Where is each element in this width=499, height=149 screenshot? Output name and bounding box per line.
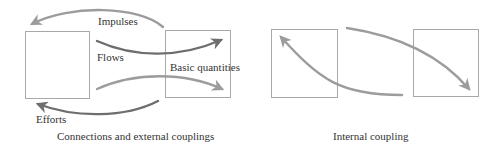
internal-downward-arrow [347, 28, 469, 89]
impulses-label: Impulses [98, 16, 138, 27]
internal-upward-arrow [281, 37, 402, 95]
internal-coupling-caption: Internal coupling [333, 131, 408, 142]
efforts-label: Efforts [36, 114, 66, 125]
external-left-box [26, 32, 90, 99]
diagram-canvas [0, 0, 499, 149]
basic-quantities-label: Basic quantities [170, 62, 240, 73]
lower-flow-arrow [97, 76, 222, 89]
external-couplings-caption: Connections and external couplings [57, 131, 214, 142]
internal-coupling-panel [272, 28, 479, 98]
flows-label: Flows [97, 52, 124, 63]
internal-right-box [414, 30, 479, 97]
internal-left-box [272, 30, 338, 98]
coupling-diagram: Impulses Flows Basic quantities Efforts … [0, 0, 499, 149]
